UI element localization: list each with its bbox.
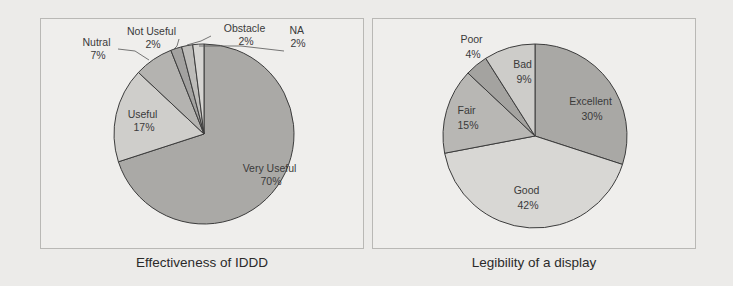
pie-slices [114,44,294,224]
legibility-caption: Legibility of a display [372,255,696,270]
label-nutral: Nutral 7% [83,36,114,61]
label-poor: Poor 4% [460,33,485,60]
effectiveness-caption: Effectiveness of IDDD [40,255,364,270]
effectiveness-pie: Very Useful 70% Useful 17% Nutral 7% Not… [41,19,365,250]
label-na: NA 2% [290,24,307,49]
label-obstacle: Obstacle 2% [224,22,268,47]
legibility-chart-panel: Excellent 30% Good 42% Fair 15% Poor 4% … [372,18,696,249]
legibility-pie: Excellent 30% Good 42% Fair 15% Poor 4% … [373,19,697,250]
effectiveness-chart-panel: Very Useful 70% Useful 17% Nutral 7% Not… [40,18,364,249]
label-not-useful: Not Useful 2% [127,25,179,50]
